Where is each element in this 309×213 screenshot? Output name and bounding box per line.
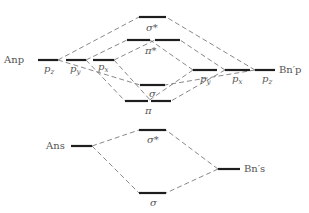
a-pz-label: pz bbox=[44, 63, 54, 76]
sigma-p-label: σ bbox=[149, 88, 157, 99]
mo-energy-diagram: Anp Bn′p Ans Bn′s pz py px py px pz σ* π… bbox=[0, 0, 309, 213]
sigma-star-s-label: σ* bbox=[147, 134, 159, 145]
a-py-label: py bbox=[70, 63, 81, 76]
sigma-s-label: σ bbox=[150, 197, 158, 208]
atom-a-np-label: Anp bbox=[3, 54, 24, 65]
b-py-label: py bbox=[200, 73, 211, 86]
atom-b-ns-label: Bn′s bbox=[244, 163, 265, 174]
labels: Anp Bn′p Ans Bn′s pz py px py px pz σ* π… bbox=[3, 22, 301, 208]
b-pz-label: pz bbox=[262, 73, 272, 86]
pi-star-label: π* bbox=[144, 45, 157, 56]
atom-a-ns-label: Ans bbox=[45, 140, 65, 151]
b-px-label: px bbox=[232, 73, 242, 86]
atom-b-np-label: Bn′p bbox=[279, 64, 301, 75]
a-px-label: px bbox=[98, 61, 108, 74]
sigma-star-p-label: σ* bbox=[146, 22, 158, 33]
pi-label: π bbox=[144, 105, 152, 116]
